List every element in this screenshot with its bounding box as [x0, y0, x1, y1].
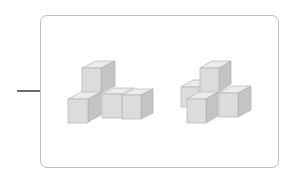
cube [122, 89, 153, 119]
cube [200, 61, 231, 93]
left-cube-figure [68, 61, 153, 123]
cube [82, 61, 115, 93]
cube-figures [0, 0, 298, 182]
cube [68, 92, 101, 123]
cube [187, 92, 218, 123]
cube [219, 86, 251, 117]
right-cube-figure [181, 61, 251, 123]
